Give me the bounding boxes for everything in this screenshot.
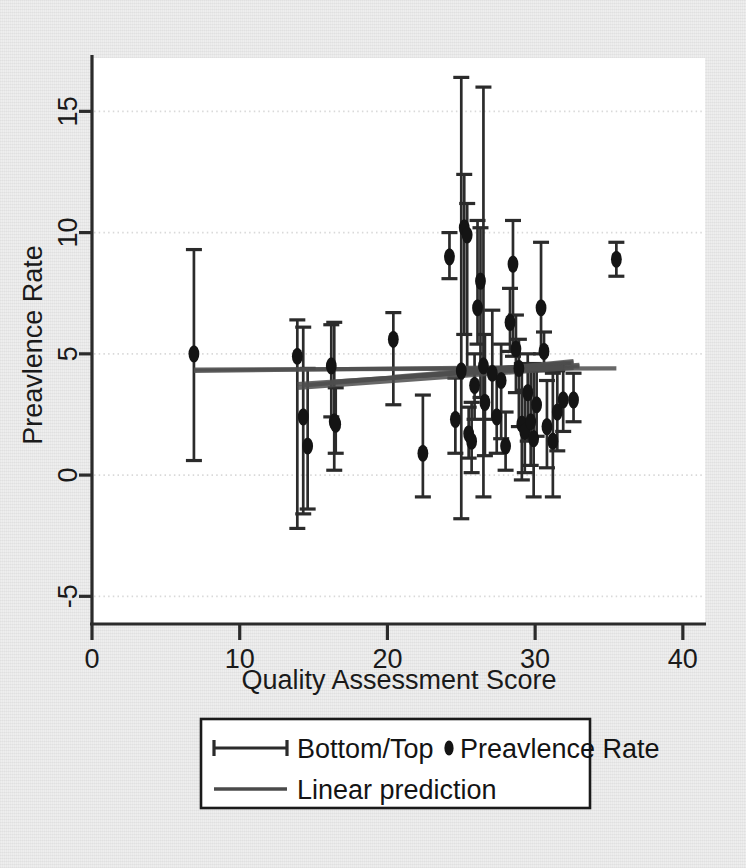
data-point-marker [539, 343, 550, 360]
x-axis-ticks-group [92, 624, 683, 640]
chart-legend[interactable]: Bottom/Top Preavlence Rate Linear predic… [201, 719, 660, 808]
data-point-marker [536, 299, 547, 316]
data-point-marker [469, 377, 480, 394]
data-point-marker [189, 345, 200, 362]
y-axis-title: Preavlence Rate [18, 245, 48, 445]
data-point-marker [547, 433, 558, 450]
data-point-marker [480, 394, 491, 411]
y-tick-label: 15 [53, 96, 83, 126]
data-point-marker [525, 413, 536, 430]
data-point-marker [558, 391, 569, 408]
x-axis-title: Quality Assessment Score [241, 665, 556, 695]
data-point-marker [505, 314, 516, 331]
data-point-marker [456, 362, 467, 379]
data-point-marker [326, 357, 337, 374]
y-tick-label: 10 [53, 218, 83, 248]
y-tick-label: 0 [53, 468, 83, 483]
legend-label-linear-prediction: Linear prediction [297, 775, 497, 805]
data-point-marker [511, 340, 522, 357]
data-point-marker [472, 299, 483, 316]
y-axis-tick-labels-group: -5051015 [53, 96, 83, 608]
y-tick-label: -5 [53, 584, 83, 608]
data-point-marker [462, 226, 473, 243]
chart-figure: -5051015 010203040 Preavlence Rate Quali… [0, 0, 746, 868]
legend-label-preavlence-rate: Preavlence Rate [460, 734, 660, 764]
legend-symbol-preavlence-rate [444, 741, 453, 756]
data-point-marker [522, 384, 533, 401]
data-point-marker [475, 272, 486, 289]
data-point-marker [466, 433, 477, 450]
x-tick-label: 0 [84, 644, 99, 674]
data-point-marker [568, 391, 579, 408]
legend-label-bottom-top: Bottom/Top [297, 734, 434, 764]
data-point-marker [491, 408, 502, 425]
data-point-marker [298, 408, 309, 425]
data-point-marker [417, 445, 428, 462]
data-point-marker [500, 437, 511, 454]
data-point-marker [528, 430, 539, 447]
data-point-marker [292, 348, 303, 365]
data-point-marker [508, 256, 519, 273]
data-point-marker [513, 360, 524, 377]
data-point-marker [542, 418, 553, 435]
y-tick-label: 5 [53, 346, 83, 361]
data-point-marker [496, 372, 507, 389]
data-point-marker [330, 416, 341, 433]
x-tick-label: 40 [668, 644, 698, 674]
data-point-marker [388, 331, 399, 348]
data-point-marker [444, 248, 455, 265]
data-point-marker [611, 251, 622, 268]
data-point-marker [450, 411, 461, 428]
data-point-marker [302, 437, 313, 454]
data-point-marker [531, 396, 542, 413]
scatter-chart-canvas: -5051015 010203040 Preavlence Rate Quali… [0, 0, 746, 868]
